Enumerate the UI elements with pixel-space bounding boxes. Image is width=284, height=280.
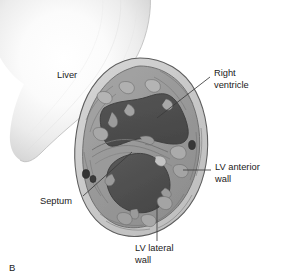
vessel-dot-left-upper (82, 170, 89, 179)
heart-cross-section (75, 58, 208, 236)
label-lv-lateral-wall-line1: LV lateral (135, 243, 174, 253)
vessel-dot-right (189, 140, 196, 149)
panel-letter: B (9, 262, 15, 273)
label-lv-anterior-wall-line1: LV anterior (215, 162, 260, 172)
label-lv-lateral-wall-line2: wall (134, 255, 151, 265)
label-right-ventricle-line1: Right (214, 68, 236, 78)
vessel-dot-left-lower (90, 175, 96, 182)
label-right-ventricle-line2: ventricle (214, 80, 249, 90)
label-liver: Liver (57, 70, 77, 80)
figure-container: Liver Right ventricle LV anterior wall L… (0, 0, 284, 280)
label-septum: Septum (40, 196, 72, 206)
anatomy-illustration: Liver Right ventricle LV anterior wall L… (0, 0, 284, 280)
label-lv-anterior-wall-line2: wall (214, 174, 231, 184)
